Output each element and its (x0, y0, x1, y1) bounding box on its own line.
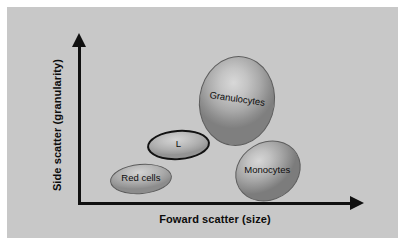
x-axis-arrowhead-icon (350, 196, 364, 210)
x-axis-label: Foward scatter (size) (78, 213, 352, 225)
population-ellipse (109, 161, 173, 196)
population-lymphocytes: L (146, 128, 211, 162)
x-axis-line (78, 202, 352, 205)
y-axis-arrowhead-icon (72, 33, 86, 47)
population-ellipse (146, 128, 211, 162)
flow-cytometry-scatter-figure: Granulocytes Monocytes L Red cells Fowar… (0, 0, 412, 251)
y-axis-label: Side scatter (granularity) (51, 45, 63, 205)
population-red-cells: Red cells (109, 161, 173, 196)
y-axis-line (78, 45, 81, 205)
chart-panel: Granulocytes Monocytes L Red cells Fowar… (7, 7, 398, 238)
